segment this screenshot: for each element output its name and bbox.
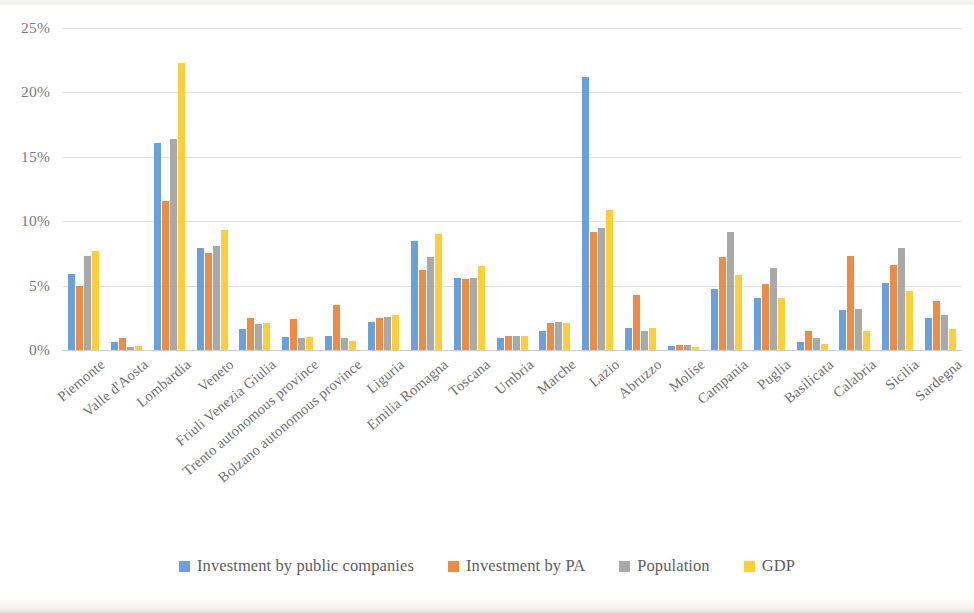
bar bbox=[813, 338, 820, 350]
bar-group bbox=[491, 28, 534, 350]
bar bbox=[762, 284, 769, 350]
y-axis: 0%5%10%15%20%25% bbox=[0, 28, 58, 350]
plot-area bbox=[62, 28, 962, 350]
bar-group bbox=[876, 28, 919, 350]
legend-item[interactable]: Investment by public companies bbox=[179, 556, 414, 576]
x-axis-labels: PiemonteValle d'AostaLombardiaVenetoFriu… bbox=[62, 350, 962, 500]
scan-artifact-bottom bbox=[0, 597, 974, 613]
bar-group bbox=[748, 28, 791, 350]
legend-item[interactable]: Investment by PA bbox=[448, 556, 585, 576]
bar-group bbox=[791, 28, 834, 350]
legend-swatch-icon bbox=[744, 561, 755, 572]
bar-group bbox=[619, 28, 662, 350]
bar-group bbox=[62, 28, 105, 350]
bar bbox=[306, 337, 313, 350]
bar bbox=[290, 319, 297, 350]
bar bbox=[205, 253, 212, 350]
bar bbox=[325, 336, 332, 350]
bar bbox=[497, 338, 504, 350]
bar-group bbox=[319, 28, 362, 350]
bar-group bbox=[233, 28, 276, 350]
legend-item[interactable]: Population bbox=[619, 556, 710, 576]
bar bbox=[84, 256, 91, 350]
y-axis-tick: 5% bbox=[29, 277, 50, 295]
bar bbox=[770, 268, 777, 350]
bar bbox=[435, 234, 442, 350]
bar bbox=[547, 323, 554, 350]
bar bbox=[427, 257, 434, 350]
bar bbox=[263, 323, 270, 350]
bar bbox=[513, 336, 520, 350]
bar bbox=[906, 291, 913, 350]
bar bbox=[898, 248, 905, 350]
bar-group bbox=[191, 28, 234, 350]
bar bbox=[505, 336, 512, 350]
bars-layer bbox=[62, 28, 962, 350]
bar bbox=[521, 336, 528, 350]
bar bbox=[711, 289, 718, 350]
bar bbox=[454, 278, 461, 350]
bar-group bbox=[705, 28, 748, 350]
bar-group bbox=[576, 28, 619, 350]
y-axis-tick: 0% bbox=[29, 341, 50, 359]
legend-label: Investment by PA bbox=[466, 556, 585, 576]
bar bbox=[754, 298, 761, 350]
y-axis-tick: 15% bbox=[21, 148, 50, 166]
bar bbox=[949, 329, 956, 350]
bar-group bbox=[405, 28, 448, 350]
bar bbox=[119, 338, 126, 350]
bar bbox=[539, 331, 546, 350]
x-axis-label: Toscana bbox=[446, 356, 494, 400]
bar bbox=[582, 77, 589, 350]
bar bbox=[170, 139, 177, 350]
bar bbox=[735, 275, 742, 350]
bar-group bbox=[105, 28, 148, 350]
bar bbox=[178, 63, 185, 350]
scan-artifact-top bbox=[0, 0, 974, 5]
legend-item[interactable]: GDP bbox=[744, 556, 795, 576]
bar bbox=[197, 248, 204, 350]
bar bbox=[797, 342, 804, 350]
bar bbox=[925, 318, 932, 350]
bar bbox=[213, 246, 220, 350]
bar-group bbox=[362, 28, 405, 350]
bar bbox=[555, 322, 562, 350]
bar bbox=[368, 322, 375, 350]
bar bbox=[633, 295, 640, 350]
bar bbox=[625, 328, 632, 350]
bar bbox=[598, 228, 605, 350]
bar bbox=[221, 230, 228, 350]
bar-group bbox=[148, 28, 191, 350]
bar bbox=[419, 270, 426, 350]
bar bbox=[384, 317, 391, 350]
bar bbox=[863, 331, 870, 350]
x-axis-label: Calabria bbox=[830, 356, 880, 402]
bar bbox=[941, 315, 948, 350]
bar bbox=[376, 318, 383, 350]
bar bbox=[563, 323, 570, 350]
bar bbox=[606, 210, 613, 350]
legend-swatch-icon bbox=[448, 561, 459, 572]
legend-swatch-icon bbox=[179, 561, 190, 572]
bar bbox=[333, 305, 340, 350]
bar-group bbox=[662, 28, 705, 350]
bar bbox=[719, 257, 726, 350]
bar-group bbox=[833, 28, 876, 350]
bar bbox=[239, 329, 246, 350]
bar bbox=[68, 274, 75, 350]
bar bbox=[805, 331, 812, 350]
chart-legend: Investment by public companiesInvestment… bbox=[0, 556, 974, 576]
legend-swatch-icon bbox=[619, 561, 630, 572]
legend-label: Investment by public companies bbox=[197, 556, 414, 576]
bar-group bbox=[919, 28, 962, 350]
y-axis-tick: 10% bbox=[21, 212, 50, 230]
legend-label: GDP bbox=[762, 556, 795, 576]
bar bbox=[590, 232, 597, 350]
bar bbox=[470, 278, 477, 350]
bar bbox=[855, 309, 862, 350]
bar-group bbox=[448, 28, 491, 350]
bar bbox=[255, 324, 262, 350]
x-axis-label: Abruzzo bbox=[615, 356, 665, 402]
x-axis-label: Umbria bbox=[491, 356, 537, 398]
bar bbox=[282, 337, 289, 350]
